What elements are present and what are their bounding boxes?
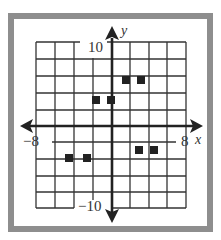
y-min-tick-label: −10 — [78, 198, 101, 214]
x-axis-label: x — [194, 132, 202, 147]
y-axis-up-arrow-icon — [105, 26, 119, 40]
x-min-tick-label: −8 — [23, 133, 39, 149]
data-point — [83, 154, 91, 162]
coordinate-plane: y x 10 −10 −8 8 — [0, 0, 221, 240]
data-point — [65, 154, 73, 162]
data-point — [107, 96, 115, 104]
x-max-tick-label: 8 — [181, 133, 189, 149]
data-point — [92, 96, 100, 104]
data-point — [137, 76, 145, 84]
data-point — [135, 146, 143, 154]
data-point — [150, 146, 158, 154]
axes — [28, 38, 194, 215]
y-max-tick-label: 10 — [88, 39, 103, 55]
y-axis-label: y — [119, 23, 128, 38]
data-point — [122, 76, 130, 84]
